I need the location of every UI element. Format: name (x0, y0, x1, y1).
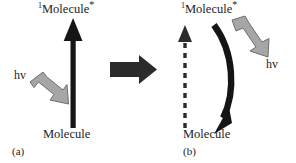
panel-b-excited-state-label: 1Molecule* (181, 3, 237, 16)
panel-b-excited-state-name: Molecule (185, 2, 232, 16)
panel-a-photon-label: hv (14, 69, 26, 81)
panel-a-excited-state-name: Molecule (42, 2, 89, 16)
panel-b-ground-state-label: Molecule (183, 128, 230, 141)
panel-a-caption: (a) (12, 146, 24, 157)
panel-a-ground-state-label: Molecule (43, 128, 90, 141)
emission-curved-arrow (214, 25, 232, 134)
panel-b-caption: (b) (183, 146, 196, 157)
outgoing-photon-arrow (232, 16, 269, 57)
absorption-arrow (64, 18, 83, 128)
dashed-absorption-arrow (178, 25, 192, 128)
figure-container: 1Molecule* Molecule hv (a) 1Molecule* Mo… (0, 0, 296, 163)
incoming-photon-arrow (30, 72, 69, 104)
panel-a-excited-state-label: 1Molecule* (38, 3, 94, 16)
panel-b-excited-state-asterisk: * (232, 0, 237, 10)
panel-b-photon-label: hv (266, 58, 278, 70)
transition-arrow (110, 55, 157, 84)
panel-a-excited-state-asterisk: * (89, 0, 94, 10)
